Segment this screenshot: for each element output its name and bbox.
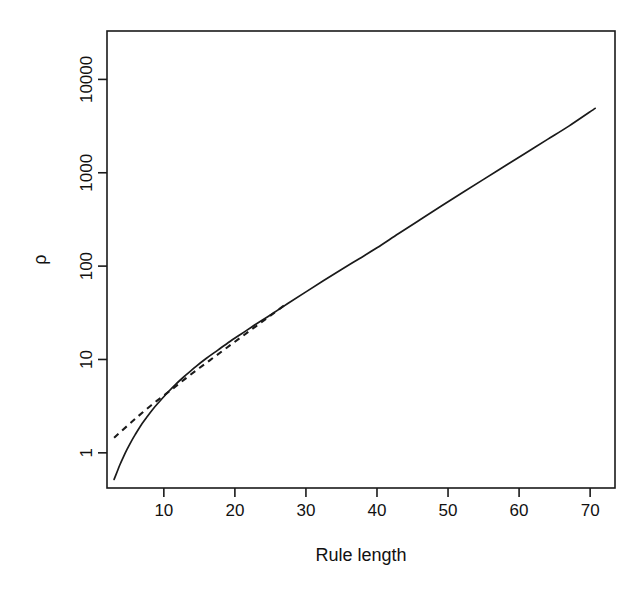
x-tick-label: 10 — [154, 501, 173, 520]
x-tick-label: 30 — [296, 501, 315, 520]
x-tick-label: 50 — [439, 501, 458, 520]
y-tick-label: 10 — [78, 350, 97, 369]
chart-container: 10203040506070 110100100010000 Rule leng… — [0, 0, 635, 594]
y-axis-title: ρ — [30, 254, 50, 264]
x-tick-label: 20 — [225, 501, 244, 520]
chart-canvas: 10203040506070 110100100010000 Rule leng… — [0, 0, 635, 594]
x-tick-label: 40 — [368, 501, 387, 520]
y-tick-label: 100 — [78, 252, 97, 280]
x-tick-label: 60 — [510, 501, 529, 520]
y-tick-label: 1000 — [78, 154, 97, 192]
x-axis-title: Rule length — [315, 545, 406, 565]
x-tick-label: 70 — [581, 501, 600, 520]
y-tick-label: 10000 — [78, 56, 97, 103]
y-tick-label: 1 — [78, 448, 97, 457]
